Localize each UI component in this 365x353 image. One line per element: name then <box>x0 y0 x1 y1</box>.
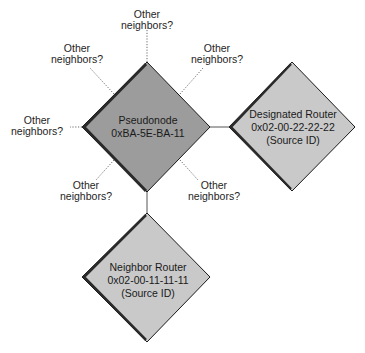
dotted-link-top-left <box>90 68 114 94</box>
designated-router-node[interactable]: Designated Router 0x02-00-22-22-22 (Sour… <box>229 62 355 191</box>
other-neighbors-top-right: Other neighbors? <box>191 42 243 65</box>
svg-text:neighbors?: neighbors? <box>191 53 243 65</box>
svg-text:neighbors?: neighbors? <box>51 53 103 65</box>
pseudonode-id: 0xBA-5E-BA-11 <box>111 127 184 139</box>
other-neighbors-bottom-right: Other neighbors? <box>188 179 240 202</box>
designated-router-id: 0x02-00-22-22-22 <box>251 121 335 133</box>
pseudonode-node[interactable]: Pseudonode 0xBA-5E-BA-11 <box>82 62 210 192</box>
pseudonode-label: Pseudonode <box>119 114 178 126</box>
other-neighbors-bottom-left: Other neighbors? <box>60 179 112 202</box>
dotted-link-top-right <box>180 68 203 94</box>
neighbor-router-id: 0x02-00-11-11-11 <box>107 274 188 286</box>
dotted-link-bottom-left <box>96 160 114 180</box>
svg-text:neighbors?: neighbors? <box>60 190 112 202</box>
svg-text:neighbors?: neighbors? <box>11 125 63 137</box>
neighbor-router-node[interactable]: Neighbor Router 0x02-00-11-11-11 (Source… <box>82 213 210 342</box>
designated-router-source-id: (Source ID) <box>266 134 320 146</box>
neighbor-router-source-id: (Source ID) <box>121 287 175 299</box>
other-neighbors-top-left: Other neighbors? <box>51 42 103 65</box>
diagram-canvas: Pseudonode 0xBA-5E-BA-11 Designated Rout… <box>0 0 365 353</box>
svg-text:neighbors?: neighbors? <box>188 190 240 202</box>
other-neighbors-left: Other neighbors? <box>11 114 63 137</box>
neighbor-router-label: Neighbor Router <box>109 261 187 273</box>
other-neighbors-top: Other neighbors? <box>121 8 173 31</box>
svg-text:neighbors?: neighbors? <box>121 19 173 31</box>
designated-router-label: Designated Router <box>249 108 337 120</box>
dotted-link-bottom-right <box>180 160 198 180</box>
